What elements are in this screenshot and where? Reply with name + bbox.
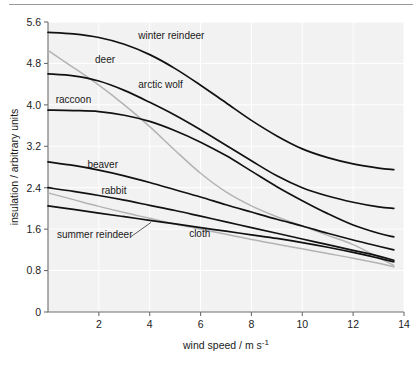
y-tick-label: 0 xyxy=(35,306,41,318)
series-label-cloth: cloth xyxy=(189,228,210,239)
y-axis-title: insulation / arbitrary units xyxy=(8,109,20,226)
y-tick-label: 1.6 xyxy=(26,223,41,235)
y-tick-label: 5.6 xyxy=(26,16,41,28)
x-tick-label: 14 xyxy=(398,318,410,330)
x-tick-label: 8 xyxy=(249,318,255,330)
x-tick-label: 2 xyxy=(96,318,102,330)
y-tick-label: 2.4 xyxy=(26,182,41,194)
x-tick-label: 6 xyxy=(198,318,204,330)
y-tick-label: 3.2 xyxy=(26,140,41,152)
x-tick-label: 4 xyxy=(147,318,153,330)
y-tick-label: 4.0 xyxy=(26,99,41,111)
series-label-beaver: beaver xyxy=(87,159,118,170)
y-axis-tick-labels: 00.81.62.43.24.04.85.6 xyxy=(26,16,41,318)
top-divider-rule xyxy=(9,4,413,5)
series-label-rabbit: rabbit xyxy=(101,185,126,196)
series-label-arctic-wolf: arctic wolf xyxy=(138,79,183,90)
series-label-raccoon: raccoon xyxy=(56,94,92,105)
x-tick-label: 12 xyxy=(347,318,359,330)
x-axis-tick-labels: 2468101214 xyxy=(96,318,410,330)
series-label-deer: deer xyxy=(95,54,116,65)
insulation-vs-wind-speed-chart: 00.81.62.43.24.04.85.6 2468101214 winter… xyxy=(0,0,419,369)
x-axis-title: wind speed / m s-1 xyxy=(182,338,269,351)
figure-container: 00.81.62.43.24.04.85.6 2468101214 winter… xyxy=(0,0,419,369)
y-tick-label: 4.8 xyxy=(26,57,41,69)
series-label-winter-reindeer: winter reindeer xyxy=(137,30,205,41)
y-tick-label: 0.8 xyxy=(26,264,41,276)
series-label-summer-reindeer: summer reindeer xyxy=(57,229,133,240)
x-tick-label: 10 xyxy=(296,318,308,330)
